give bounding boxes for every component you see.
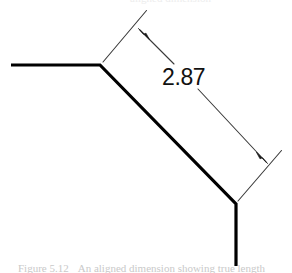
dimension-value-label: 2.87 [162,64,205,90]
arrowhead-lower-icon [256,152,267,163]
extension-line-upper [103,11,147,63]
figure-caption-body: An aligned dimension showing true length [78,264,265,273]
object-outline [11,65,236,266]
arrowhead-upper-icon [138,28,149,39]
technical-drawing: 2.87 [0,0,292,273]
dimension-line-lower [198,89,266,162]
figure-caption-label: Figure 5.12 [18,264,69,273]
figure-caption-line: Figure 5.12An aligned dimension showing … [18,264,265,273]
figure-caption: Figure 5.12An aligned dimension showing … [0,264,292,273]
figure-canvas: aligned dimension 2.87 Figure 5.12An ali… [0,0,292,273]
